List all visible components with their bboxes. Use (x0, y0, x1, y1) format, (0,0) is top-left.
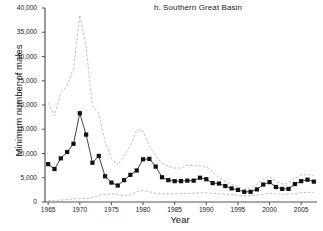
data-point-marker (223, 184, 227, 188)
y-tick-label: 35,000 (9, 28, 37, 35)
data-point-marker (97, 154, 101, 158)
x-tick-label: 1980 (130, 206, 156, 213)
series-upper-confidence (48, 15, 314, 189)
data-point-marker (141, 157, 145, 161)
data-point-marker (312, 180, 316, 184)
data-point-marker (286, 187, 290, 191)
series-main-markers (46, 111, 316, 194)
y-tick-label: 20,000 (9, 101, 37, 108)
data-point-marker (242, 190, 246, 194)
data-point-marker (261, 182, 265, 186)
x-tick-label: 1970 (67, 206, 93, 213)
data-point-marker (52, 167, 56, 171)
y-tick-label: 0 (9, 198, 37, 205)
data-point-marker (198, 176, 202, 180)
data-point-marker (280, 187, 284, 191)
x-tick-label: 1975 (98, 206, 124, 213)
y-tick-label: 15,000 (9, 125, 37, 132)
x-tick-label: 1985 (162, 206, 188, 213)
data-point-marker (255, 187, 259, 191)
data-point-marker (122, 178, 126, 182)
data-point-marker (84, 132, 88, 136)
data-point-marker (236, 188, 240, 192)
data-point-marker (299, 179, 303, 183)
data-point-marker (305, 178, 309, 182)
data-point-marker (173, 179, 177, 183)
data-point-marker (192, 179, 196, 183)
y-tick-label: 25,000 (9, 77, 37, 84)
x-tick-label: 2005 (288, 206, 314, 213)
series-lower-confidence (48, 190, 314, 200)
data-point-marker (65, 150, 69, 154)
plot-area (0, 0, 323, 231)
y-tick-label: 5,000 (9, 174, 37, 181)
data-point-marker (71, 142, 75, 146)
y-tick-label: 10,000 (9, 150, 37, 157)
data-point-marker (128, 173, 132, 177)
data-point-marker (147, 157, 151, 161)
data-point-marker (109, 181, 113, 185)
upper-confidence-line (48, 15, 314, 189)
x-tick-label: 1965 (35, 206, 61, 213)
x-tick-label: 1990 (193, 206, 219, 213)
data-point-marker (90, 161, 94, 165)
data-point-marker (160, 175, 164, 179)
data-point-marker (274, 185, 278, 189)
data-point-marker (116, 183, 120, 187)
data-point-marker (179, 179, 183, 183)
data-point-marker (135, 168, 139, 172)
y-tick-label: 30,000 (9, 53, 37, 60)
axes (45, 8, 317, 202)
data-point-marker (204, 177, 208, 181)
x-tick-label: 2000 (257, 206, 283, 213)
data-point-marker (211, 181, 215, 185)
data-point-marker (230, 186, 234, 190)
lower-confidence-line (48, 190, 314, 200)
data-point-marker (46, 162, 50, 166)
data-point-marker (166, 178, 170, 182)
data-point-marker (103, 174, 107, 178)
data-point-marker (217, 181, 221, 185)
y-tick-label: 40,000 (9, 4, 37, 11)
x-tick-label: 1995 (225, 206, 251, 213)
data-point-marker (78, 111, 82, 115)
data-point-marker (267, 180, 271, 184)
data-point-marker (154, 165, 158, 169)
data-point-marker (59, 156, 63, 160)
data-point-marker (185, 179, 189, 183)
data-point-marker (248, 190, 252, 194)
chart-figure: h. Southern Great Basin Minimum number o… (0, 0, 323, 231)
data-point-marker (293, 182, 297, 186)
